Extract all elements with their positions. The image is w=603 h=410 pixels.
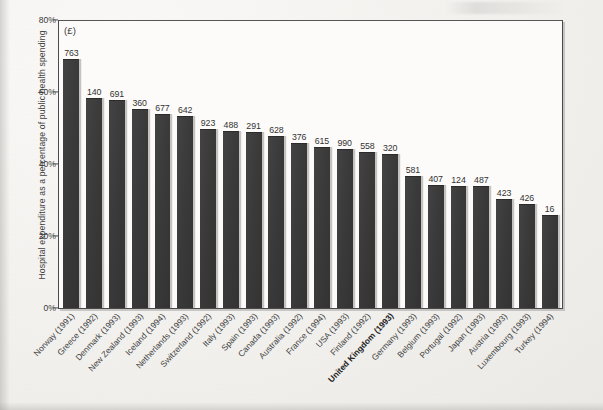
bar-slot[interactable]: 16 bbox=[542, 20, 558, 308]
bar[interactable] bbox=[109, 100, 125, 308]
bar-value-label: 140 bbox=[87, 87, 101, 97]
bar[interactable] bbox=[451, 186, 467, 308]
x-axis-label-group: Norway (1991)Greece (1992)Denmark (1993)… bbox=[60, 311, 561, 409]
y-axis-tick-label: 20% bbox=[16, 231, 56, 241]
bar-value-label: 423 bbox=[497, 188, 511, 198]
bar[interactable] bbox=[382, 154, 398, 308]
bar-slot[interactable]: 140 bbox=[86, 20, 102, 308]
bar-value-label: 923 bbox=[201, 118, 215, 128]
bar[interactable] bbox=[223, 131, 239, 308]
bar-slot[interactable]: 558 bbox=[359, 20, 375, 308]
bar-slot[interactable]: 763 bbox=[63, 20, 79, 308]
bar[interactable] bbox=[291, 143, 307, 308]
bar-value-label: 426 bbox=[520, 193, 534, 203]
bar[interactable] bbox=[177, 116, 193, 308]
bar-slot[interactable]: 581 bbox=[405, 20, 421, 308]
bar-value-label: 320 bbox=[383, 143, 397, 153]
bar-slot[interactable]: 320 bbox=[382, 20, 398, 308]
bar-slot[interactable]: 488 bbox=[223, 20, 239, 308]
bar-value-label: 763 bbox=[64, 48, 78, 58]
bar-slot[interactable]: 677 bbox=[155, 20, 171, 308]
bar-slot[interactable]: 407 bbox=[428, 20, 444, 308]
bar-value-label: 488 bbox=[224, 120, 238, 130]
y-axis-tick-label: 80% bbox=[16, 15, 56, 25]
bar[interactable] bbox=[428, 185, 444, 308]
bar[interactable] bbox=[155, 114, 171, 308]
bar[interactable] bbox=[519, 204, 535, 308]
bar[interactable] bbox=[542, 215, 558, 308]
y-axis-title: Hospital expenditure as a percentage of … bbox=[37, 5, 47, 305]
y-axis-tick-label: 40% bbox=[16, 159, 56, 169]
bar[interactable] bbox=[86, 98, 102, 308]
bar[interactable] bbox=[314, 147, 330, 308]
bar-value-label: 487 bbox=[474, 175, 488, 185]
bar-value-label: 990 bbox=[337, 138, 351, 148]
bar[interactable] bbox=[132, 109, 148, 308]
bar[interactable] bbox=[473, 186, 489, 308]
bar[interactable] bbox=[268, 136, 284, 308]
bar-slot[interactable]: 426 bbox=[519, 20, 535, 308]
bar[interactable] bbox=[200, 129, 216, 308]
bar[interactable] bbox=[63, 59, 79, 308]
bar-slot[interactable]: 360 bbox=[132, 20, 148, 308]
bar-slot[interactable]: 487 bbox=[473, 20, 489, 308]
bar-value-label: 558 bbox=[360, 141, 374, 151]
bar-value-label: 291 bbox=[246, 121, 260, 131]
bar-slot[interactable]: 615 bbox=[314, 20, 330, 308]
bar-value-label: 581 bbox=[406, 165, 420, 175]
bar-slot[interactable]: 376 bbox=[291, 20, 307, 308]
bar[interactable] bbox=[246, 132, 262, 308]
bar-slot[interactable]: 923 bbox=[200, 20, 216, 308]
bar[interactable] bbox=[359, 152, 375, 308]
bar-slot[interactable]: 990 bbox=[337, 20, 353, 308]
bar-slot[interactable]: 628 bbox=[268, 20, 284, 308]
bar-slot[interactable]: 291 bbox=[246, 20, 262, 308]
bar-value-label: 407 bbox=[429, 174, 443, 184]
bar-value-label: 124 bbox=[451, 175, 465, 185]
bar-value-label: 360 bbox=[132, 98, 146, 108]
bar-value-label: 376 bbox=[292, 132, 306, 142]
y-axis-tick-label: 0% bbox=[16, 303, 56, 313]
bar-value-label: 677 bbox=[155, 103, 169, 113]
bar[interactable] bbox=[496, 199, 512, 308]
bar[interactable] bbox=[405, 176, 421, 308]
bar-value-label: 642 bbox=[178, 105, 192, 115]
y-axis-tick-label: 60% bbox=[16, 87, 56, 97]
bar[interactable] bbox=[337, 149, 353, 308]
bar-value-label: 16 bbox=[545, 204, 555, 214]
bar-value-label: 691 bbox=[110, 89, 124, 99]
bar-slot[interactable]: 691 bbox=[109, 20, 125, 308]
bar-slot[interactable]: 423 bbox=[496, 20, 512, 308]
bar-value-label: 615 bbox=[315, 136, 329, 146]
bar-series: 7631406913606776429234882916283766159905… bbox=[60, 20, 561, 308]
bar-value-label: 628 bbox=[269, 125, 283, 135]
bar-slot[interactable]: 642 bbox=[177, 20, 193, 308]
bar-slot[interactable]: 124 bbox=[451, 20, 467, 308]
